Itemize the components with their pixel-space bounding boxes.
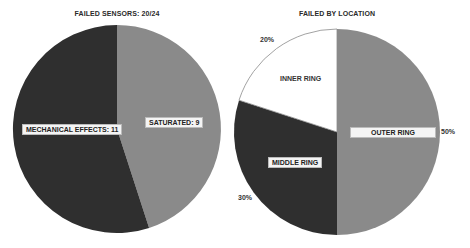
pct-middle-ring: 30%	[238, 194, 252, 201]
label-saturated: SATURATED: 9	[145, 117, 203, 128]
pct-outer-ring: 50%	[441, 128, 455, 135]
label-mechanical-effects: MECHANICAL EFFECTS: 11	[22, 124, 122, 135]
pct-inner-ring: 20%	[260, 36, 274, 43]
label-middle-ring: MIDDLE RING	[268, 157, 322, 168]
label-inner-ring: INNER RING	[280, 75, 321, 82]
label-outer-ring: OUTER RING	[350, 127, 436, 138]
